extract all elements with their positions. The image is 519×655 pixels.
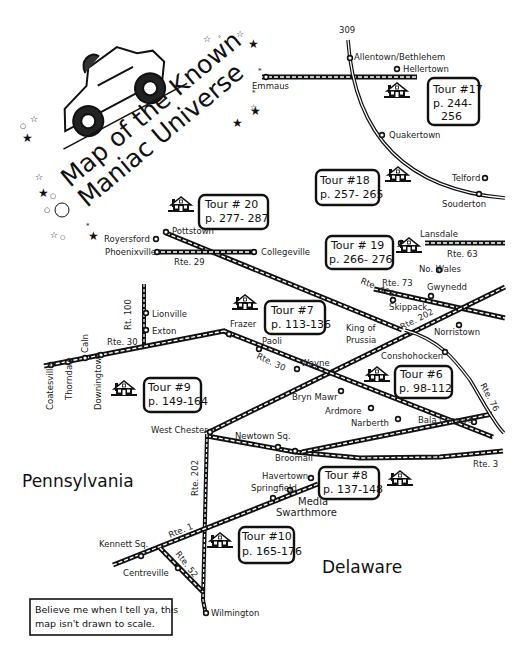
route-3-label: Rte. 3 (473, 459, 498, 469)
town-narberth: Narberth (351, 418, 389, 428)
town-swarthmore: Swarthmore (276, 507, 337, 518)
town-coatesville: Coatesville (45, 363, 55, 410)
star-icon: * (252, 89, 256, 97)
town-telford: Telford (451, 173, 480, 183)
tour-8-pages: p. 137-148 (323, 483, 383, 496)
state-delaware: Delaware (322, 557, 402, 577)
town-hellertown: Hellertown (403, 64, 449, 74)
tour-10-label: Tour #10 (241, 530, 292, 543)
star-icon: ★ (88, 229, 99, 243)
tour-10-pages: p. 165-176 (242, 545, 302, 558)
house-icon-tour-8 (387, 471, 413, 486)
star-icon: ★ (248, 37, 259, 51)
tour-7-pages: p. 113-136 (271, 318, 331, 331)
note-line-1: Believe me when I tell ya, this (35, 604, 178, 615)
town-kennettsq: Kennett Sq. (99, 539, 148, 549)
star-icon: * (258, 67, 262, 75)
route-30-west-label: Rte. 30 (107, 337, 138, 347)
route-29-label: Rte. 29 (174, 257, 205, 267)
town-paoli: Paoli (262, 336, 282, 346)
town-nowales: No. Wales (419, 264, 461, 274)
tour-18-pages: p. 257- 265 (320, 188, 383, 201)
star-icon: * (86, 222, 90, 230)
house-icon-tour-9 (111, 381, 137, 396)
town-conshohocken: Conshohocken (381, 351, 443, 361)
star-icon: ★ (232, 116, 243, 130)
town-brynmawr: Bryn Mawr (292, 392, 338, 402)
star-icon: ☆ (236, 29, 244, 39)
tour-8-label: Tour #8 (324, 469, 368, 482)
route-202-south-label: Rte. 202 (190, 460, 200, 496)
note-line-2: map isn't drawn to scale. (35, 618, 155, 629)
town-westchester: West Chester (151, 425, 208, 435)
star-icon: ☆ (30, 114, 38, 124)
road-rte-202-south (203, 434, 207, 615)
star-icon: ☆ (203, 34, 211, 44)
tour-18-label: Tour #18 (319, 174, 370, 187)
tour-9-label: Tour #9 (147, 381, 191, 394)
tour-19-label: Tour # 19 (330, 239, 384, 252)
town-wayne: Wayne (301, 358, 330, 368)
town-lansdale: Lansdale (420, 229, 458, 239)
tour-20-pages: p. 277- 287 (205, 212, 268, 225)
house-icon-tour-18 (385, 167, 411, 182)
circle-icon: ○ (44, 206, 50, 214)
town-thorndale: Thorndale (64, 357, 74, 401)
town-phoenixville: Phoenixville (105, 247, 156, 257)
town-havertown: Havertown (262, 471, 308, 481)
circle-icon: ○ (20, 122, 26, 130)
tour-6-label: Tour #6 (399, 368, 443, 381)
town-pottstown: Pottstown (172, 226, 214, 236)
map-canvas: Tour #17 p. 244- 256 Tour #18 p. 257- 26… (0, 0, 519, 655)
house-icon-tour-20 (168, 197, 194, 212)
house-icon-tour-7 (232, 295, 258, 310)
circle-icon: ° (218, 34, 221, 41)
town-lionville: Lionville (152, 309, 187, 319)
town-media: Media (298, 496, 328, 507)
town-downingtown: Downingtown (93, 352, 103, 410)
circle-icon: ○ (60, 233, 65, 240)
house-icon-tour-6 (364, 367, 390, 382)
tour-17-label: Tour #17 (432, 83, 483, 96)
town-centreville: Centreville (123, 568, 169, 578)
town-broomall: Broomall (275, 453, 313, 463)
tour-19-pages: p. 266- 276 (329, 253, 392, 266)
circle-icon: ○ (50, 192, 56, 200)
town-prussia: Prussia (346, 335, 376, 345)
town-allentown: Allentown/Bethlehem (354, 52, 445, 62)
tour-17-pages-1: p. 244- (433, 97, 472, 110)
star-icon: ☆ (250, 103, 257, 112)
tour-9-pages: p. 149-164 (148, 395, 208, 408)
scale-note: Believe me when I tell ya, this map isn'… (30, 599, 178, 635)
route-73-label: Rte. 73 (382, 278, 413, 288)
town-collegeville: Collegeville (261, 247, 310, 257)
town-balacynwyd: Bala Cynwyd (418, 415, 473, 425)
house-icon-tour-17 (384, 83, 410, 98)
town-exton: Exton (152, 326, 176, 336)
star-icon: ☆ (35, 172, 43, 182)
tour-20-label: Tour # 20 (204, 198, 258, 211)
route-63-label: Rte. 63 (447, 249, 478, 259)
tour-7-label: Tour #7 (270, 304, 314, 317)
state-pennsylvania: Pennsylvania (22, 471, 134, 491)
house-icon-tour-10 (207, 533, 233, 548)
town-springfield: Springfield (251, 483, 297, 493)
town-souderton: Souderton (442, 199, 486, 209)
star-icon: ★ (22, 131, 33, 145)
town-ardmore: Ardmore (325, 406, 362, 416)
star-icon: ★ (38, 186, 49, 200)
town-norristown: Norristown (434, 327, 480, 337)
tour-6-pages: p. 98-112 (399, 382, 452, 395)
town-royersford: Royersford (104, 234, 150, 244)
route-309-label: 309 (339, 25, 355, 35)
town-kingof: King of (346, 323, 377, 333)
tour-17-pages-2: 256 (441, 110, 462, 123)
town-quakertown: Quakertown (389, 130, 441, 140)
town-emmaus: Emmaus (252, 81, 290, 91)
town-caln: Caln (80, 334, 90, 353)
town-gwynedd: Gwynedd (427, 282, 467, 292)
town-newtownsq: Newtown Sq. (235, 431, 291, 441)
town-wilmington: Wilmington (211, 608, 259, 618)
route-100-label: Rt. 100 (123, 299, 133, 330)
town-frazer: Frazer (230, 319, 257, 329)
